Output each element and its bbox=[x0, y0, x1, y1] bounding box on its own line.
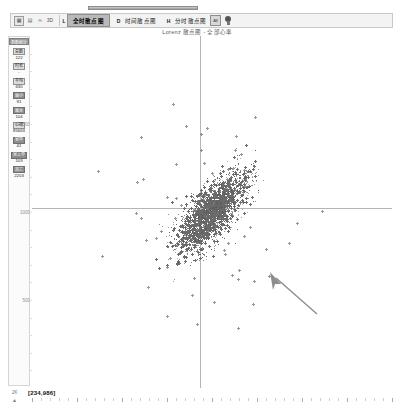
scatter-point bbox=[183, 241, 184, 242]
scatter-point bbox=[217, 222, 218, 223]
scatter-point bbox=[239, 206, 240, 207]
sidebar-item-average[interactable]: 平均 630 bbox=[13, 78, 25, 90]
scatter-point bbox=[231, 227, 232, 228]
scatter-point bbox=[173, 281, 174, 282]
tab-time-scatter-label: 时间散点图 bbox=[125, 17, 156, 25]
scatter-point bbox=[220, 191, 221, 192]
scatter-point bbox=[197, 236, 200, 239]
sidebar-item-max[interactable]: 最大 104 bbox=[13, 107, 25, 119]
scatter-point bbox=[193, 260, 194, 261]
scatter-point bbox=[193, 244, 196, 247]
x-ruler-tick bbox=[149, 398, 150, 401]
scatter-point bbox=[255, 173, 256, 174]
sidebar-item-pvc[interactable]: 室早 41 bbox=[13, 137, 25, 149]
scatter-point bbox=[222, 237, 223, 238]
scatter-point bbox=[233, 215, 234, 216]
x-ruler-tick bbox=[95, 398, 96, 401]
scatter-point bbox=[209, 234, 210, 235]
scatter-point bbox=[219, 223, 220, 224]
all-button[interactable]: All bbox=[210, 15, 221, 26]
scatter-point bbox=[213, 204, 216, 207]
scatter-point bbox=[240, 177, 241, 178]
scatter-point bbox=[242, 209, 243, 210]
scatter-point bbox=[219, 206, 220, 207]
scatter-point bbox=[247, 181, 248, 182]
scatter-point-outlier bbox=[225, 187, 228, 190]
grid-icon[interactable]: ▦ bbox=[14, 16, 24, 26]
scatter-point-outlier bbox=[232, 167, 235, 170]
scatter-point bbox=[158, 267, 161, 270]
scatter-point-outlier bbox=[191, 294, 194, 297]
scatter-point bbox=[182, 245, 185, 248]
scatter-point bbox=[194, 205, 195, 206]
scatter-point-outlier bbox=[206, 127, 209, 130]
scatter-point bbox=[234, 171, 237, 174]
scatter-point bbox=[205, 203, 206, 204]
scatter-point-outlier bbox=[252, 303, 255, 306]
scatter-point bbox=[220, 182, 221, 183]
sidebar-item-pac[interactable]: 室上早 103 bbox=[11, 152, 27, 164]
scatter-point-outlier bbox=[140, 136, 143, 139]
scatter-point bbox=[240, 172, 241, 173]
scatter-point-outlier bbox=[155, 237, 158, 240]
scatter-point bbox=[191, 199, 194, 202]
tab-hourly-scatter[interactable]: 分时散点图 bbox=[171, 14, 210, 27]
scatter-point bbox=[220, 174, 221, 175]
scatter-point bbox=[263, 180, 264, 181]
sidebar-item-other[interactable]: 其它 2203 bbox=[13, 166, 25, 178]
x-ruler-tick bbox=[167, 398, 168, 402]
x-ruler-tick bbox=[140, 398, 141, 401]
horizontal-scrollbar-thumb[interactable] bbox=[88, 6, 198, 10]
link-icon[interactable]: ∞ bbox=[36, 17, 44, 25]
x-ruler-tick bbox=[257, 398, 258, 402]
tab-full-scatter[interactable]: 全时散点图 bbox=[67, 14, 110, 27]
scatter-point-outlier bbox=[101, 255, 104, 258]
scatter-point bbox=[245, 213, 246, 214]
x-ruler-tick bbox=[275, 398, 276, 401]
scatter-point-outlier bbox=[200, 133, 203, 136]
chart-icon[interactable]: ▤ bbox=[26, 17, 34, 25]
scatter-point bbox=[183, 207, 186, 210]
sidebar-item-total[interactable]: 总数 122 bbox=[13, 48, 25, 60]
scatter-point-outlier bbox=[166, 196, 169, 199]
scatter-point bbox=[246, 192, 247, 193]
scatter-point bbox=[205, 187, 206, 188]
lorenz-scatter-plot[interactable]: 15001000500 50010001500 bbox=[32, 36, 392, 388]
tab-time-scatter[interactable]: 时间散点图 bbox=[121, 14, 160, 27]
scatter-point bbox=[213, 240, 216, 243]
scatter-point bbox=[177, 258, 178, 259]
scatter-point bbox=[256, 181, 257, 182]
scatter-point bbox=[200, 189, 203, 192]
scatter-point bbox=[171, 245, 174, 248]
scatter-point bbox=[191, 248, 192, 249]
scatter-point-outlier bbox=[249, 226, 252, 229]
scatter-point bbox=[231, 206, 232, 207]
scatter-point bbox=[206, 252, 207, 253]
sidebar-item-min[interactable]: 最小 91 bbox=[13, 92, 25, 104]
scatter-point-outlier bbox=[232, 195, 235, 198]
scatter-point bbox=[200, 237, 201, 238]
scatter-point bbox=[214, 246, 215, 247]
scatter-point bbox=[202, 240, 203, 241]
scatter-point bbox=[211, 237, 212, 238]
scatter-point bbox=[251, 196, 254, 199]
scatter-point bbox=[252, 185, 253, 186]
scatter-point bbox=[202, 222, 203, 223]
scatter-point bbox=[228, 227, 229, 228]
scatter-point bbox=[240, 189, 241, 190]
scatter-point bbox=[209, 228, 210, 229]
scatter-point bbox=[174, 249, 175, 250]
scale-icon[interactable]: 3D bbox=[46, 17, 54, 25]
x-ruler-tick bbox=[383, 398, 384, 401]
scatter-point bbox=[216, 234, 217, 235]
x-ruler-tick bbox=[122, 398, 123, 402]
scatter-point bbox=[246, 183, 247, 184]
scatter-point bbox=[193, 238, 194, 239]
scatter-point-outlier bbox=[174, 217, 177, 220]
bulb-icon[interactable] bbox=[224, 16, 232, 26]
scatter-point-outlier bbox=[226, 178, 229, 181]
sidebar-item-duration[interactable]: 时长 - bbox=[13, 63, 25, 75]
scatter-point bbox=[202, 232, 203, 233]
scatter-point bbox=[233, 203, 234, 204]
scatter-point bbox=[203, 202, 204, 203]
